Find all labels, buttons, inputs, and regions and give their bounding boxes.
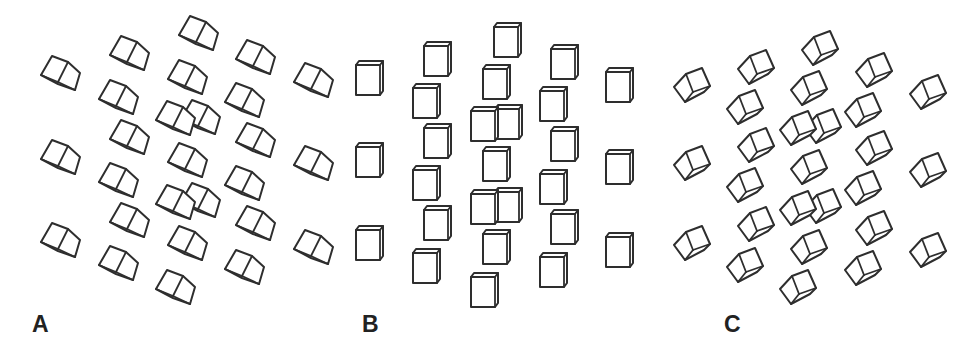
cube-icon [99, 163, 138, 197]
cube-icon [110, 203, 149, 237]
cube-icon [424, 124, 451, 158]
panel-label-a: A [32, 313, 49, 336]
cube-icon [856, 211, 892, 245]
cube-icon [495, 105, 522, 139]
cube-icon [845, 251, 881, 285]
cube-icon [780, 111, 816, 145]
cube-icon [41, 223, 80, 257]
cube-canvas [0, 0, 980, 360]
cube-icon [738, 207, 774, 241]
cube-icon [495, 188, 522, 222]
cube-icon [99, 246, 138, 280]
cube-icon [179, 16, 218, 50]
cube-icon [294, 63, 333, 97]
cube-icon [168, 226, 207, 260]
cube-icon [294, 146, 333, 180]
cube-icon [236, 123, 275, 157]
cube-icon [483, 230, 510, 264]
cube-icon [168, 60, 207, 94]
panel-label-b: B [362, 313, 379, 336]
cube-icon [483, 65, 510, 99]
cube-icon [471, 190, 498, 224]
cube-icon [41, 140, 80, 174]
panel-a [41, 16, 333, 304]
cube-icon [791, 230, 827, 264]
cube-icon [551, 127, 578, 161]
cube-icon [424, 206, 451, 240]
cube-icon [845, 171, 881, 205]
cube-icon [413, 84, 440, 118]
cube-icon [856, 53, 892, 87]
cube-icon [471, 273, 498, 307]
cube-icon [168, 143, 207, 177]
cube-icon [413, 166, 440, 200]
cube-icon [294, 230, 333, 264]
cube-icon [356, 61, 383, 95]
cube-icon [483, 147, 510, 181]
cube-icon [727, 168, 763, 202]
cube-icon [413, 249, 440, 283]
cube-icon [845, 93, 881, 127]
cube-icon [738, 128, 774, 162]
cube-icon [41, 56, 80, 90]
cube-icon [236, 40, 275, 74]
cube-icon [910, 153, 946, 187]
cube-icon [236, 206, 275, 240]
cube-icon [606, 150, 633, 184]
cube-icon [674, 68, 710, 102]
cube-icon [540, 253, 567, 287]
cube-icon [606, 68, 633, 102]
cube-icon [606, 233, 633, 267]
cube-icon [674, 226, 710, 260]
cube-icon [494, 23, 521, 57]
cube-icon [110, 36, 149, 70]
cube-icon [551, 210, 578, 244]
cube-icon [910, 233, 946, 267]
panel-label-c: C [724, 313, 741, 336]
cube-icon [540, 87, 567, 121]
cube-icon [780, 270, 816, 304]
cube-icon [791, 71, 827, 105]
panel-c [674, 31, 946, 304]
cube-icon [356, 143, 383, 177]
cube-icon [110, 120, 149, 154]
cube-icon [424, 42, 451, 76]
cube-icon [791, 150, 827, 184]
cube-icon [856, 131, 892, 165]
cube-icon [674, 146, 710, 180]
cube-icon [910, 75, 946, 109]
cube-icon [738, 50, 774, 84]
cube-icon [156, 270, 195, 304]
panel-b [356, 23, 633, 307]
cube-icon [727, 248, 763, 282]
cube-icon [551, 45, 578, 79]
cube-icon [802, 31, 838, 65]
cube-icon [225, 166, 264, 200]
cube-icon [356, 226, 383, 260]
cube-icon [225, 250, 264, 284]
cube-icon [471, 107, 498, 141]
cube-icon [540, 170, 567, 204]
cube-icon [99, 80, 138, 114]
cube-icon [727, 90, 763, 124]
cube-icon [225, 83, 264, 117]
cube-array-figure: A B C [0, 0, 980, 360]
cube-icon [780, 191, 816, 225]
